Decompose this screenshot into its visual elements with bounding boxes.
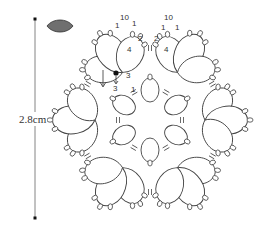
snowflake-motif [47, 10, 253, 231]
shuttle-leaf-icon [47, 20, 73, 32]
svg-text:3: 3 [113, 84, 118, 93]
svg-text:1: 1 [131, 85, 136, 94]
svg-text:2: 2 [154, 34, 159, 43]
svg-text:1: 1 [161, 23, 166, 32]
svg-text:4: 4 [164, 45, 169, 54]
svg-text:1: 1 [175, 23, 180, 32]
tatting-diagram: 10 1 1 2 4 10 1 1 2 4 3 3 1 2.8cm [0, 0, 258, 235]
label-10-left: 10 [120, 13, 129, 22]
svg-text:1: 1 [132, 19, 137, 28]
label-10-right: 10 [164, 13, 173, 22]
svg-text:4: 4 [127, 45, 132, 54]
measurement-label: 2.8cm [18, 112, 47, 126]
svg-text:1: 1 [115, 21, 120, 30]
svg-text:3: 3 [126, 71, 131, 80]
svg-text:2: 2 [138, 34, 143, 43]
